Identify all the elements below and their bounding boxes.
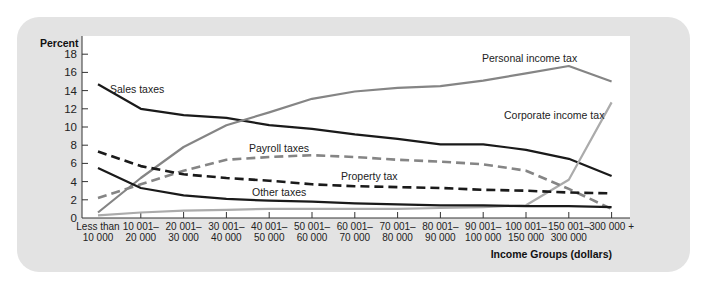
y-tick-label: 2	[71, 194, 77, 206]
y-tick-label: 8	[71, 139, 77, 151]
x-tick-label: 50 001–	[294, 221, 331, 232]
y-tick-label: 16	[64, 66, 77, 78]
corporate-income-tax-label: Corporate income tax	[504, 109, 605, 121]
payroll-taxes-label: Payroll taxes	[249, 142, 309, 154]
x-tick-label: 20 000	[126, 232, 157, 243]
x-tick-label: 10 000	[83, 232, 114, 243]
x-tick-label: 30 000	[168, 232, 199, 243]
x-axis-title: Income Groups (dollars)	[491, 248, 612, 260]
y-tick-label: 6	[71, 157, 77, 169]
x-tick-label: 300 000 +	[589, 221, 634, 232]
x-tick-label: 150 000	[508, 232, 545, 243]
y-tick-label: 14	[64, 85, 77, 97]
x-tick-label: 30 001–	[208, 221, 245, 232]
x-tick-label: 80 001–	[422, 221, 459, 232]
y-tick-label: 4	[71, 176, 78, 188]
x-tick-label: 100 001–	[505, 221, 547, 232]
x-tick-label: 60 001–	[337, 221, 374, 232]
x-tick-label: 90 001–	[465, 221, 502, 232]
property-tax-label: Property tax	[341, 170, 398, 182]
x-tick-label: 10 001–	[123, 221, 160, 232]
sales-taxes-label: Sales taxes	[110, 83, 164, 95]
y-tick-label: 10	[64, 121, 77, 133]
x-tick-label: 40 000	[211, 232, 242, 243]
x-tick-label: 50 000	[254, 232, 285, 243]
y-tick-label: 12	[64, 103, 77, 115]
x-tick-label: 70 001–	[380, 221, 417, 232]
x-tick-label: 40 001–	[251, 221, 288, 232]
y-tick-label: 18	[64, 48, 77, 60]
x-tick-label: Less than	[76, 221, 119, 232]
line-chart: 024681012141618Less than10 00010 001–20 …	[0, 0, 707, 291]
y-axis-title: Percent	[40, 37, 79, 49]
x-tick-label: 300 000	[551, 232, 588, 243]
x-tick-label: 20 001–	[166, 221, 203, 232]
other-taxes-label: Other taxes	[252, 186, 306, 198]
x-tick-label: 60 000	[297, 232, 328, 243]
x-tick-label: 150 001–	[548, 221, 590, 232]
x-tick-label: 90 000	[425, 232, 456, 243]
x-tick-label: 80 000	[382, 232, 413, 243]
x-tick-label: 100 000	[465, 232, 502, 243]
x-tick-label: 70 000	[340, 232, 371, 243]
personal-income-tax-label: Personal income tax	[482, 52, 578, 64]
